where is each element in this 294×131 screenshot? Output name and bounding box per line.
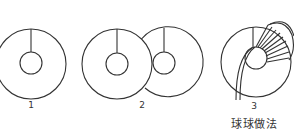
diagram-canvas	[0, 0, 294, 131]
step3-wrapped-ring	[221, 22, 294, 100]
step3-label: 3	[244, 101, 264, 111]
figure-caption: 球球做法	[224, 115, 284, 131]
step1-label: 1	[21, 100, 41, 110]
step1-ring	[0, 29, 66, 99]
step2-label: 2	[132, 100, 152, 110]
step2-rings	[82, 27, 203, 99]
